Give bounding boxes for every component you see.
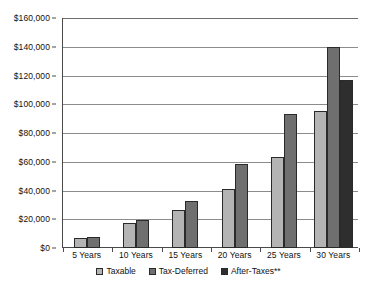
gridline <box>63 47 358 48</box>
legend-swatch-icon <box>96 268 103 275</box>
gridline <box>63 191 358 192</box>
bar-chart-figure: $0$20,000$40,000$60,000$80,000$100,000$1… <box>0 0 377 292</box>
y-axis-tick-mark <box>52 104 56 105</box>
x-axis-tick-label: 10 Years <box>111 250 160 260</box>
legend-swatch-icon <box>221 268 228 275</box>
gridline <box>63 219 358 220</box>
y-axis-tick-mark <box>52 75 56 76</box>
gridline <box>63 18 358 19</box>
y-axis-tick-label: $100,000 <box>14 99 50 109</box>
x-axis-tick-mark <box>359 248 360 252</box>
legend-item-label: Tax-Deferred <box>159 266 208 276</box>
y-axis-tick-mark <box>52 190 56 191</box>
y-axis-tick-mark <box>52 133 56 134</box>
y-axis-tick-label: $0 <box>40 243 50 253</box>
plot-area <box>62 18 358 248</box>
y-axis-tick-mark <box>52 161 56 162</box>
y-axis-tick-label: $40,000 <box>19 186 50 196</box>
legend-item-label: After-Taxes** <box>231 266 281 276</box>
x-axis-tick-label: 20 Years <box>210 250 259 260</box>
gridline <box>63 76 358 77</box>
legend-item: After-Taxes** <box>221 266 281 276</box>
y-axis-tick-label: $140,000 <box>14 42 50 52</box>
y-axis-tick-mark <box>52 46 56 47</box>
x-axis-tick-label: 15 Years <box>161 250 210 260</box>
legend-item: Taxable <box>96 266 135 276</box>
y-axis-tick-label: $60,000 <box>19 157 50 167</box>
y-axis: $0$20,000$40,000$60,000$80,000$100,000$1… <box>0 18 56 248</box>
y-axis-tick-label: $80,000 <box>19 128 50 138</box>
x-axis-tick-label: 25 Years <box>259 250 308 260</box>
x-axis: 5 Years10 Years15 Years20 Years25 Years3… <box>62 250 358 260</box>
legend-item-label: Taxable <box>106 266 135 276</box>
x-axis-tick-label: 5 Years <box>62 250 111 260</box>
chart-legend: TaxableTax-DeferredAfter-Taxes** <box>0 266 377 276</box>
legend-item: Tax-Deferred <box>149 266 208 276</box>
y-axis-tick-mark <box>52 248 56 249</box>
legend-swatch-icon <box>149 268 156 275</box>
x-axis-tick-label: 30 Years <box>309 250 358 260</box>
y-axis-tick-mark <box>52 219 56 220</box>
y-axis-tick-label: $160,000 <box>14 13 50 23</box>
gridline <box>63 133 358 134</box>
y-axis-tick-label: $20,000 <box>19 214 50 224</box>
gridline <box>63 104 358 105</box>
y-axis-tick-mark <box>52 18 56 19</box>
y-axis-tick-label: $120,000 <box>14 71 50 81</box>
gridline <box>63 162 358 163</box>
